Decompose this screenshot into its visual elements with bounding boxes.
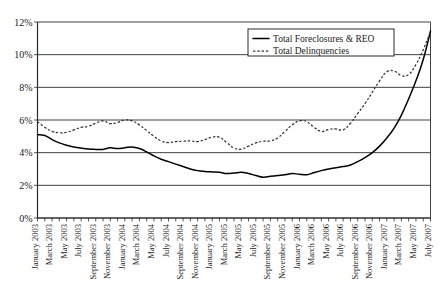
y-tick-label: 8% [19, 82, 32, 93]
chart-container: 0%2%4%6%8%10%12%January 2003March 2003Ma… [0, 0, 441, 307]
x-tick-label: November 2004 [190, 223, 200, 279]
x-tick-label: May 2007 [408, 224, 418, 259]
x-tick-label: July 2006 [335, 224, 345, 257]
y-tick-label: 2% [19, 180, 32, 191]
x-tick-label: May 2006 [321, 224, 331, 259]
x-tick-label: September 2005 [262, 224, 272, 279]
x-tick-label: July 2007 [423, 224, 433, 257]
x-tick-label: September 2006 [350, 224, 360, 279]
x-tick-label: July 2003 [73, 224, 83, 257]
x-tick-label: January 2006 [292, 224, 302, 270]
x-tick-label: November 2006 [364, 224, 374, 279]
x-tick-label: September 2003 [88, 224, 98, 279]
x-tick-label: March 2003 [44, 224, 54, 265]
y-tick-label: 10% [14, 49, 32, 60]
x-tick-label: January 2004 [117, 223, 127, 269]
y-tick-label: 6% [19, 115, 32, 126]
x-tick-label: March 2007 [393, 224, 403, 265]
legend-label: Total Foreclosures & REO [273, 34, 375, 44]
x-tick-label: March 2005 [219, 224, 229, 265]
x-tick-label: September 2004 [175, 223, 185, 279]
legend: Total Foreclosures & REOTotal Delinquenc… [248, 29, 394, 56]
x-tick-label: March 2004 [131, 223, 141, 265]
x-tick-label: November 2005 [277, 224, 287, 279]
y-tick-label: 12% [14, 17, 32, 28]
x-tick-label: January 2003 [30, 224, 40, 270]
legend-label: Total Delinquencies [273, 46, 349, 56]
x-tick-label: January 2005 [204, 224, 214, 270]
line-chart: 0%2%4%6%8%10%12%January 2003March 2003Ma… [0, 0, 441, 307]
x-tick-label: November 2003 [102, 224, 112, 279]
x-axis-labels: January 2003March 2003May 2003July 2003S… [30, 223, 433, 279]
x-tick-label: May 2004 [146, 223, 156, 258]
x-tick-label: July 2004 [161, 223, 171, 257]
x-tick-label: March 2006 [306, 224, 316, 265]
x-tick-label: January 2007 [379, 224, 389, 270]
x-tick-label: July 2005 [248, 224, 258, 257]
x-tick-label: May 2005 [233, 224, 243, 259]
y-tick-label: 0% [19, 213, 32, 224]
y-axis-labels: 0%2%4%6%8%10%12% [14, 17, 37, 224]
x-tick-label: May 2003 [59, 224, 69, 259]
y-tick-label: 4% [19, 147, 32, 158]
